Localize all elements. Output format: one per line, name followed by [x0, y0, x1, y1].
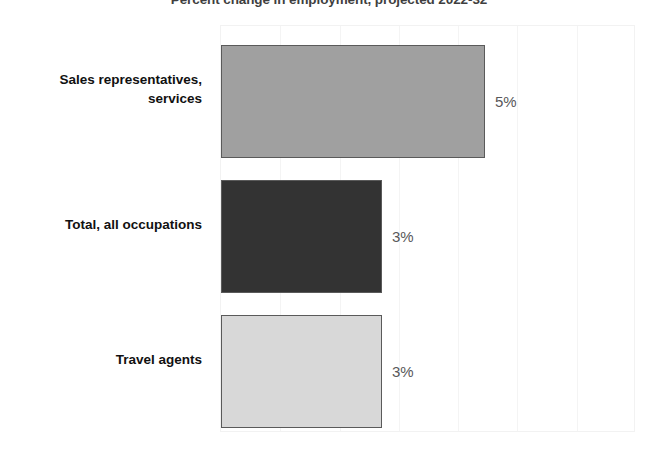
- category-label-total-all-occupations: Total, all occupations: [0, 215, 202, 234]
- category-label-travel-agents: Travel agents: [0, 350, 202, 369]
- plot-area: 5% 3% 3%: [220, 25, 635, 432]
- bar-value-sales-representatives: 5%: [495, 94, 517, 110]
- bar-chart: Percent change in employment, projected …: [0, 0, 658, 453]
- category-label-line-1: Total, all occupations: [65, 217, 202, 232]
- category-label-line-1: Sales representatives,: [59, 72, 202, 87]
- bar-total-all-occupations[interactable]: [221, 180, 382, 293]
- bar-sales-representatives[interactable]: [221, 45, 485, 158]
- gridline-5: [517, 26, 518, 431]
- category-label-line-2: services: [148, 91, 202, 106]
- category-label-sales-representatives: Sales representatives, services: [0, 70, 202, 108]
- category-label-line-1: Travel agents: [116, 352, 202, 367]
- bar-value-total-all-occupations: 3%: [392, 229, 414, 245]
- gridline-6: [577, 26, 578, 431]
- bar-value-travel-agents: 3%: [392, 364, 414, 380]
- bar-travel-agents[interactable]: [221, 315, 382, 428]
- category-axis-labels: Sales representatives, services Total, a…: [0, 25, 210, 432]
- chart-title: Percent change in employment, projected …: [0, 0, 658, 9]
